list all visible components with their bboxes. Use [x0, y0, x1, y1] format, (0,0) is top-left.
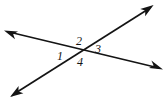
diagram-canvas: 1 2 3 4: [0, 0, 166, 101]
geometry-diagram: 1 2 3 4: [0, 0, 166, 101]
angle-label-4: 4: [77, 55, 83, 69]
angle-label-2: 2: [76, 34, 82, 48]
angle-label-1: 1: [57, 49, 63, 63]
angle-label-3: 3: [94, 42, 101, 56]
